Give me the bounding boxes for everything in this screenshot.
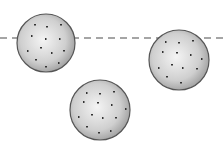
sphere-left [17,14,75,72]
diagram-canvas [0,0,223,154]
sphere-bottom [70,80,130,140]
sphere-right [149,30,209,90]
